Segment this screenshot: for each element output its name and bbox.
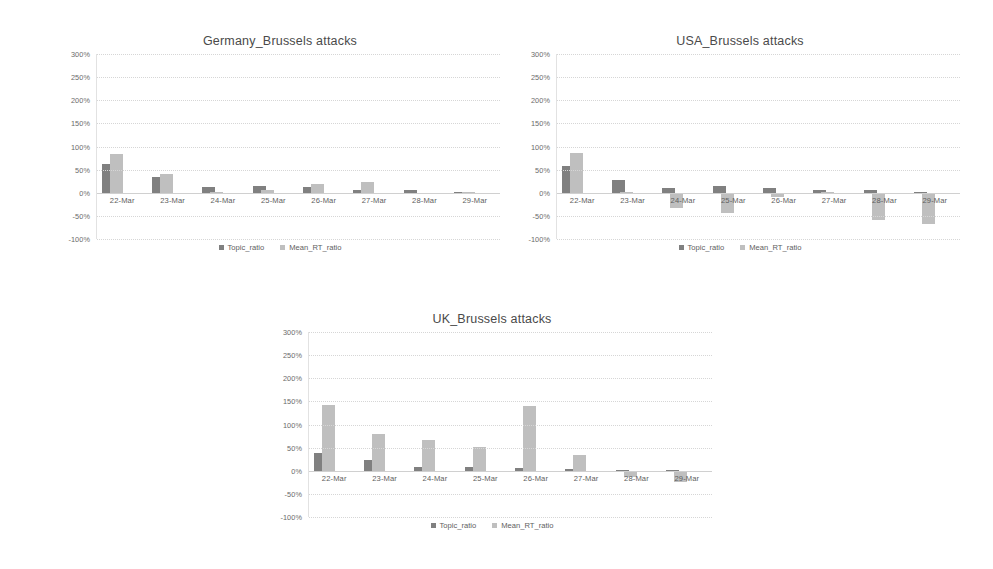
bar-mean-rt-ratio[interactable] xyxy=(110,154,123,193)
y-axis-tick: 0% xyxy=(79,188,90,197)
gridline xyxy=(97,54,500,55)
bar-mean-rt-ratio[interactable] xyxy=(322,405,335,471)
y-axis-tick: 150% xyxy=(531,119,550,128)
y-axis-tick: 0% xyxy=(539,188,550,197)
gridline xyxy=(309,378,712,379)
gridline xyxy=(309,332,712,333)
gridline xyxy=(97,147,500,148)
y-axis-tick: -100% xyxy=(68,235,90,244)
gridline xyxy=(97,170,500,171)
x-axis-label: 26-Mar xyxy=(511,474,561,483)
bar-mean-rt-ratio[interactable] xyxy=(523,406,536,470)
gridline xyxy=(309,401,712,402)
legend-item-mean-rt-ratio: Mean_RT_ratio xyxy=(280,243,341,252)
gridline xyxy=(309,355,712,356)
chart-uk-title: UK_Brussels attacks xyxy=(272,312,712,326)
y-axis-tick: 300% xyxy=(71,50,90,59)
x-axis-label: 24-Mar xyxy=(410,474,460,483)
bar-mean-rt-ratio[interactable] xyxy=(311,184,324,193)
chart-germany-title: Germany_Brussels attacks xyxy=(60,34,500,48)
y-axis-tick: 100% xyxy=(283,420,302,429)
x-axis-label: 29-Mar xyxy=(450,196,500,205)
chart-germany-plot: 22-Mar23-Mar24-Mar25-Mar26-Mar27-Mar28-M… xyxy=(96,54,500,239)
gridline xyxy=(557,147,960,148)
bar-topic-ratio[interactable] xyxy=(713,186,726,192)
x-axis-label: 26-Mar xyxy=(299,196,349,205)
legend-item-mean-rt-ratio: Mean_RT_ratio xyxy=(492,521,553,530)
bar-mean-rt-ratio[interactable] xyxy=(573,455,586,471)
y-axis-tick: 150% xyxy=(283,397,302,406)
chart-usa-plot-area: 300%250%200%150%100%50%0%-50%-100% 22-Ma… xyxy=(520,54,960,239)
gridline xyxy=(309,471,712,472)
gridline xyxy=(97,216,500,217)
legend-label-topic: Topic_ratio xyxy=(688,243,725,252)
x-axis-label: 27-Mar xyxy=(349,196,399,205)
gridline xyxy=(309,517,712,518)
x-axis-label: 25-Mar xyxy=(248,196,298,205)
y-axis-tick: 100% xyxy=(71,142,90,151)
x-axis-label: 24-Mar xyxy=(658,196,708,205)
legend-label-rt: Mean_RT_ratio xyxy=(749,243,801,252)
x-axis-label: 25-Mar xyxy=(708,196,758,205)
bar-mean-rt-ratio[interactable] xyxy=(570,153,583,192)
gridline xyxy=(309,448,712,449)
bar-mean-rt-ratio[interactable] xyxy=(160,174,173,193)
x-axis-label: 27-Mar xyxy=(809,196,859,205)
gridline xyxy=(557,77,960,78)
gridline xyxy=(557,193,960,194)
chart-usa-y-axis: 300%250%200%150%100%50%0%-50%-100% xyxy=(520,54,554,239)
chart-uk-plot-area: 300%250%200%150%100%50%0%-50%-100% 22-Ma… xyxy=(272,332,712,517)
y-axis-tick: -100% xyxy=(280,513,302,522)
chart-usa: USA_Brussels attacks 300%250%200%150%100… xyxy=(520,34,960,252)
gridline xyxy=(97,193,500,194)
bar-mean-rt-ratio[interactable] xyxy=(473,447,486,471)
x-axis-label: 28-Mar xyxy=(611,474,661,483)
bar-mean-rt-ratio[interactable] xyxy=(422,440,435,471)
legend-item-mean-rt-ratio: Mean_RT_ratio xyxy=(740,243,801,252)
x-axis-label: 22-Mar xyxy=(97,196,147,205)
gridline xyxy=(97,77,500,78)
y-axis-tick: 0% xyxy=(291,466,302,475)
x-axis-label: 29-Mar xyxy=(910,196,960,205)
legend-swatch-icon-topic xyxy=(679,245,684,250)
x-axis-label: 28-Mar xyxy=(399,196,449,205)
gridline xyxy=(97,239,500,240)
x-axis-label: 24-Mar xyxy=(198,196,248,205)
charts-page: Germany_Brussels attacks 300%250%200%150… xyxy=(0,0,993,569)
chart-usa-legend: Topic_ratio Mean_RT_ratio xyxy=(520,243,960,252)
x-axis-label: 25-Mar xyxy=(460,474,510,483)
y-axis-tick: 50% xyxy=(535,165,550,174)
gridline xyxy=(557,123,960,124)
bar-mean-rt-ratio[interactable] xyxy=(372,434,385,471)
gridline xyxy=(97,123,500,124)
y-axis-tick: 300% xyxy=(531,50,550,59)
x-axis-label: 22-Mar xyxy=(309,474,359,483)
legend-swatch-icon-rt xyxy=(740,245,745,250)
y-axis-tick: 200% xyxy=(283,374,302,383)
legend-item-topic-ratio: Topic_ratio xyxy=(219,243,265,252)
y-axis-tick: 150% xyxy=(71,119,90,128)
chart-uk: UK_Brussels attacks 300%250%200%150%100%… xyxy=(272,312,712,530)
gridline xyxy=(557,216,960,217)
x-axis-label: 23-Mar xyxy=(147,196,197,205)
y-axis-tick: 250% xyxy=(283,351,302,360)
gridline xyxy=(309,425,712,426)
chart-germany-y-axis: 300%250%200%150%100%50%0%-50%-100% xyxy=(60,54,94,239)
gridline xyxy=(557,100,960,101)
legend-label-rt: Mean_RT_ratio xyxy=(501,521,553,530)
y-axis-tick: 50% xyxy=(75,165,90,174)
x-axis-label: 28-Mar xyxy=(859,196,909,205)
legend-swatch-icon-rt xyxy=(280,245,285,250)
legend-swatch-icon-topic xyxy=(431,523,436,528)
gridline xyxy=(97,100,500,101)
gridline xyxy=(557,239,960,240)
chart-germany-legend: Topic_ratio Mean_RT_ratio xyxy=(60,243,500,252)
y-axis-tick: -50% xyxy=(533,211,550,220)
bar-mean-rt-ratio[interactable] xyxy=(361,182,374,193)
y-axis-tick: -50% xyxy=(285,489,302,498)
y-axis-tick: 200% xyxy=(531,96,550,105)
chart-uk-plot: 22-Mar23-Mar24-Mar25-Mar26-Mar27-Mar28-M… xyxy=(308,332,712,517)
bar-topic-ratio[interactable] xyxy=(612,180,625,193)
gridline xyxy=(309,494,712,495)
chart-germany: Germany_Brussels attacks 300%250%200%150… xyxy=(60,34,500,252)
